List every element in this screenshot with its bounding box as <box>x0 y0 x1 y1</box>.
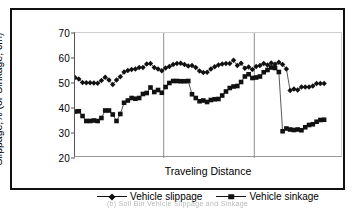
figure-frame: 203040506070 Slippage,% (or Sinkage, cm)… <box>10 8 345 190</box>
data-point-square <box>107 108 112 113</box>
data-point-diamond <box>95 81 100 86</box>
figure-container: 203040506070 Slippage,% (or Sinkage, cm)… <box>0 0 355 221</box>
data-point-square <box>273 66 278 71</box>
data-point-diamond <box>306 84 311 89</box>
data-point-square <box>148 85 153 90</box>
data-point-square <box>144 91 149 96</box>
data-point-square <box>137 96 142 101</box>
plot-area: 203040506070 <box>74 32 342 157</box>
series-vehicle-slippage <box>75 58 327 94</box>
data-point-square <box>322 117 327 122</box>
data-point-square <box>99 116 104 121</box>
y-axis-tick-mark <box>71 158 75 159</box>
diamond-marker-icon <box>109 193 116 200</box>
data-point-square <box>110 112 115 117</box>
data-point-square <box>258 74 263 79</box>
data-point-square <box>160 90 165 95</box>
data-point-square <box>118 112 123 117</box>
legend-line-icon <box>97 196 127 197</box>
legend-line-icon <box>216 196 246 197</box>
data-point-square <box>220 93 225 98</box>
data-point-square <box>163 85 168 90</box>
y-axis-tick-mark <box>71 133 75 134</box>
data-point-square <box>114 119 119 124</box>
y-axis-tick-mark <box>71 83 75 84</box>
data-point-square <box>80 114 85 119</box>
data-point-square <box>239 80 244 85</box>
data-point-square <box>277 70 282 75</box>
data-point-square <box>76 109 81 114</box>
x-axis-title: Traveling Distance <box>74 165 342 177</box>
y-axis-tick-mark <box>71 108 75 109</box>
y-axis-tick-mark <box>71 33 75 34</box>
square-marker-icon <box>229 194 235 200</box>
y-axis-tick-mark <box>71 58 75 59</box>
series-vehicle-sinkage <box>75 65 326 133</box>
data-point-square <box>235 84 240 89</box>
y-axis-title: Slippage,% (or Sinkage, cm) <box>0 24 4 174</box>
data-point-square <box>186 79 191 84</box>
chart-canvas <box>75 33 343 158</box>
data-point-diamond <box>321 81 326 86</box>
figure-caption: (b) Soil Bin Vehicle Slippage and Sinkag… <box>10 200 345 214</box>
